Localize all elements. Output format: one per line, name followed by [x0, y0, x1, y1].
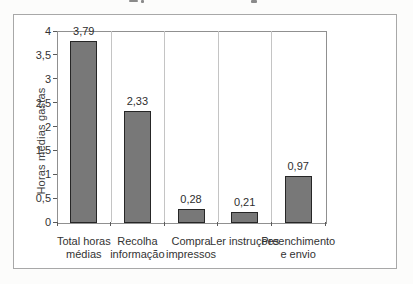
category-separator: [271, 31, 272, 222]
y-tick-label: 2,5: [17, 97, 51, 109]
y-tick-mark: [53, 174, 57, 175]
y-tick-mark: [53, 31, 57, 32]
category-separator: [218, 31, 219, 222]
y-tick-mark: [53, 54, 57, 55]
x-tick-mark: [217, 222, 218, 226]
bar-value-label: 2,33: [112, 95, 162, 108]
x-tick-mark: [110, 222, 111, 226]
bar-1: [124, 111, 151, 223]
bar-value-label: 0,28: [166, 193, 216, 206]
y-tick-label: 4: [17, 25, 51, 37]
bar-value-label: 0,97: [273, 160, 323, 173]
bar-2: [178, 209, 205, 223]
y-tick-label: 1: [17, 168, 51, 180]
x-tick-mark: [164, 222, 165, 226]
category-label-line: e envio: [256, 248, 340, 261]
y-tick-mark: [53, 102, 57, 103]
x-tick-mark: [325, 222, 326, 226]
category-label-line: impressos: [149, 248, 233, 261]
y-tick-label: 3,5: [17, 49, 51, 61]
bar-4: [285, 176, 312, 223]
y-tick-label: 2: [17, 121, 51, 133]
category-label-line: Preenchimento: [256, 235, 340, 248]
bar-value-label: 3,79: [59, 25, 109, 38]
y-tick-mark: [53, 150, 57, 151]
y-tick-label: 0: [17, 216, 51, 228]
chart-render-layer: 00,511,522,533,543,79Total horasmédias2,…: [0, 0, 413, 284]
y-tick-label: 0,5: [17, 192, 51, 204]
scanned-chart-page: Horas médias gastas 00,511,522,533,543,7…: [0, 0, 413, 284]
y-tick-mark: [53, 78, 57, 79]
x-tick-mark: [271, 222, 272, 226]
y-tick-label: 3: [17, 73, 51, 85]
x-tick-mark: [57, 222, 58, 226]
bar-0: [70, 41, 97, 223]
bar-3: [231, 212, 258, 223]
category-label: Preenchimentoe envio: [256, 235, 340, 261]
y-tick-mark: [53, 198, 57, 199]
category-separator: [111, 31, 112, 222]
y-tick-mark: [53, 126, 57, 127]
bar-value-label: 0,21: [220, 196, 270, 209]
y-tick-label: 1,5: [17, 144, 51, 156]
